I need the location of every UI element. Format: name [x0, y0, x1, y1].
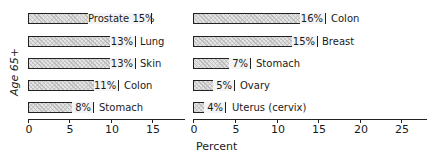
bar-value-stomach-right: 7% [229, 58, 250, 69]
bar-category-uterus-cervix: Uterus (cervix) [232, 102, 306, 113]
bar-value-ovary: 5% [213, 80, 234, 91]
tick-label-right-25: 25 [392, 123, 412, 136]
bar-category-skin: Skin [140, 58, 161, 69]
bar-value-stomach-left: 8% [72, 102, 93, 113]
tick-label-right-10: 10 [268, 123, 288, 136]
bar-category-ovary: Ovary [240, 80, 270, 91]
tick-label-right-15: 15 [309, 123, 329, 136]
tick-label-left-0: 0 [19, 123, 39, 136]
bar-category-colon-left: Colon [124, 80, 152, 91]
bar-category-stomach-left: Stomach [99, 102, 143, 113]
tick-label-left-15: 15 [143, 123, 163, 136]
bar-value-colon-left: 11% [94, 80, 118, 91]
tick-label-left-10: 10 [102, 123, 122, 136]
x-axis-label: Percent [196, 140, 237, 153]
bar-value-colon-right: 16% [300, 13, 325, 24]
bar-label-prostate: Prostate 15% [88, 13, 151, 24]
bar-value-skin: 13% [110, 58, 135, 69]
tick-label-right-0: 0 [184, 123, 204, 136]
bar-value-breast: 15% [292, 36, 317, 47]
bar-category-breast: Breast [322, 36, 354, 47]
tick-label-right-20: 20 [351, 123, 371, 136]
x-axis-right [193, 119, 427, 120]
bar-category-lung: Lung [140, 36, 164, 47]
bar-category-colon-right: Colon [331, 13, 359, 24]
y-axis-label: Age 65+ [8, 48, 21, 96]
bar-value-uterus-cervix: 4% [204, 102, 225, 113]
tick-label-left-5: 5 [60, 123, 80, 136]
bar-value-lung: 13% [110, 36, 135, 47]
bar-category-stomach-right: Stomach [256, 58, 300, 69]
x-axis-left [28, 119, 185, 120]
tick-label-right-5: 5 [226, 123, 246, 136]
